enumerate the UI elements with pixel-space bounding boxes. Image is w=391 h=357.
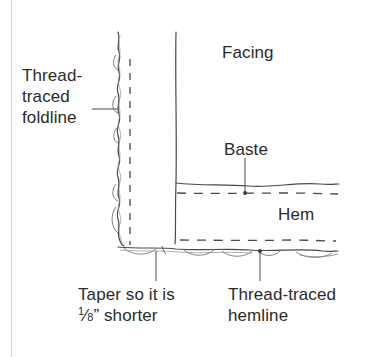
hemline-leader-dot <box>258 249 262 253</box>
baste-dashed-line <box>177 193 338 194</box>
baste-leader-dot <box>243 191 247 195</box>
folded-edge-group <box>112 32 124 246</box>
fold-scallop-1 <box>114 55 118 70</box>
fold-scallop-2 <box>113 96 118 113</box>
facing-vertical-edge <box>175 32 176 244</box>
label-taper-fraction: 1⁄8 <box>78 305 93 326</box>
hem-scallop-3 <box>222 251 252 256</box>
figure-canvas: Thread- traced foldline Facing Baste Hem… <box>0 0 391 357</box>
fraction-numerator: 1 <box>78 305 84 317</box>
label-baste: Baste <box>224 139 268 160</box>
hem-corner-tick <box>162 246 166 254</box>
label-facing: Facing <box>222 42 274 63</box>
label-thread-traced-foldline: Thread- traced foldline <box>22 65 82 128</box>
label-taper-note: Taper so it is1⁄8” shorter <box>78 284 175 326</box>
facing-horizontal-edge <box>176 183 339 186</box>
label-taper-tail: shorter <box>99 306 157 325</box>
label-taper-line1: Taper so it is <box>78 285 175 304</box>
fold-scallop-4 <box>113 184 118 201</box>
label-hem: Hem <box>278 204 314 225</box>
thread-traced-hemline-dashed <box>180 240 336 241</box>
hem-far-right-fold <box>300 254 338 257</box>
hem-bottom-edge-group <box>118 246 338 257</box>
fold-scallop-5 <box>112 207 118 233</box>
label-thread-traced-hemline: Thread-traced hemline <box>228 284 336 326</box>
